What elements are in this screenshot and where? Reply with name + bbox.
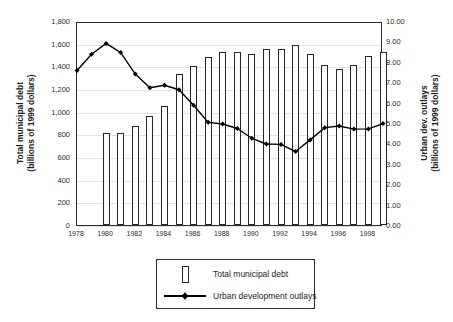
right-axis-tick-label: 0.00 bbox=[386, 222, 432, 230]
legend-bar-swatch-icon bbox=[157, 266, 213, 283]
left-axis-tick-label: 1,000 bbox=[24, 109, 70, 117]
left-axis-tick-label: 1,800 bbox=[24, 18, 70, 26]
right-axis-tick-label: 6.00 bbox=[386, 100, 432, 108]
plot-area bbox=[76, 22, 382, 226]
x-axis-tick-label: 1986 bbox=[178, 230, 208, 238]
right-axis-tick-label: 2.00 bbox=[386, 181, 432, 189]
chart-figure: Total municipal debt (billions of 1999 d… bbox=[0, 0, 453, 322]
x-axis-tick-label: 1978 bbox=[61, 230, 91, 238]
chart-legend: Total municipal debt Urban development o… bbox=[156, 259, 315, 309]
x-axis-tick-label: 1982 bbox=[119, 230, 149, 238]
line-marker bbox=[264, 141, 269, 146]
left-axis-tick-label: 1,200 bbox=[24, 86, 70, 94]
line-path bbox=[77, 43, 383, 151]
line-marker bbox=[220, 122, 225, 127]
right-axis-tick-label: 7.00 bbox=[386, 79, 432, 87]
line-marker bbox=[351, 127, 356, 132]
right-axis-tick-label: 8.00 bbox=[386, 59, 432, 67]
x-axis-tick-label: 1980 bbox=[90, 230, 120, 238]
right-axis-tick-label: 3.00 bbox=[386, 161, 432, 169]
left-axis-tick-label: 800 bbox=[24, 131, 70, 139]
x-axis-tick-label: 1994 bbox=[294, 230, 324, 238]
left-axis-tick-label: 600 bbox=[24, 154, 70, 162]
legend-item-total-municipal-debt: Total municipal debt bbox=[157, 263, 314, 285]
left-axis-tick-label: 1,400 bbox=[24, 63, 70, 71]
x-axis-tick-label: 1992 bbox=[265, 230, 295, 238]
right-axis-tick-label: 1.00 bbox=[386, 202, 432, 210]
legend-label-urban-development-outlays: Urban development outlays bbox=[213, 291, 316, 301]
line-marker bbox=[337, 124, 342, 129]
left-axis-tick-label: 400 bbox=[24, 177, 70, 185]
legend-item-urban-development-outlays: Urban development outlays bbox=[157, 285, 314, 307]
line-marker bbox=[279, 142, 284, 147]
line-marker bbox=[366, 126, 371, 131]
right-axis-tick-label: 5.00 bbox=[386, 120, 432, 128]
legend-label-total-municipal-debt: Total municipal debt bbox=[213, 269, 288, 279]
line-marker bbox=[162, 83, 167, 88]
right-axis-tick-label: 9.00 bbox=[386, 38, 432, 46]
line-series-urban-development-outlays bbox=[77, 22, 383, 226]
gridline bbox=[77, 226, 381, 227]
left-axis-tick-label: 0 bbox=[24, 222, 70, 230]
x-axis-tick-label: 1984 bbox=[148, 230, 178, 238]
right-axis-tick-label: 10.00 bbox=[386, 18, 432, 26]
x-axis-tick-label: 1998 bbox=[352, 230, 382, 238]
legend-line-swatch-icon bbox=[157, 290, 213, 302]
x-axis-tick-label: 1996 bbox=[323, 230, 353, 238]
left-axis-tick-label: 1,600 bbox=[24, 41, 70, 49]
left-axis-tick-label: 200 bbox=[24, 199, 70, 207]
right-axis-tick-label: 4.00 bbox=[386, 140, 432, 148]
x-axis-tick-label: 1988 bbox=[207, 230, 237, 238]
x-axis-tick-label: 1990 bbox=[236, 230, 266, 238]
